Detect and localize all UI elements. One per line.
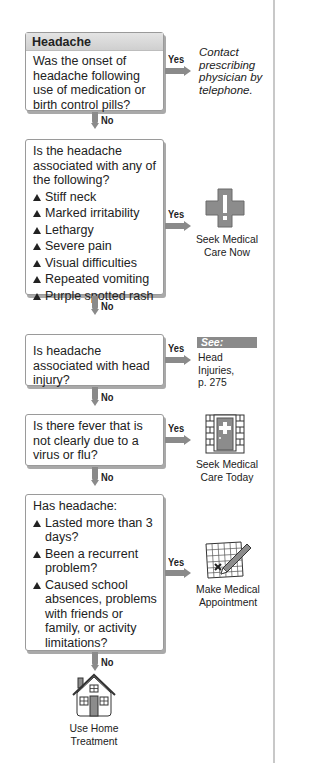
question-text: Is the headache associated with any of t…: [33, 144, 157, 188]
triangle-bullet-icon: [33, 276, 41, 283]
list-item: Lethargy: [33, 223, 157, 238]
list-item: Repeated vomiting: [33, 272, 157, 287]
house-icon: [71, 673, 117, 718]
question-text: Is headache associated with head injury?: [26, 335, 163, 392]
outcome-line: Appointment: [192, 596, 264, 609]
no-arrow: [92, 652, 98, 666]
outcome-seek-care-now: Seek Medical Care Now: [196, 233, 259, 258]
yes-arrow: [165, 223, 185, 229]
list-item-text: Lethargy: [45, 223, 94, 237]
list-item-text: Repeated vomiting: [45, 272, 149, 286]
yes-arrow: [165, 357, 185, 363]
outcome-line: Use Home: [63, 722, 126, 735]
question-box-medication: Headache Was the onset of headache follo…: [25, 32, 164, 111]
question-text: Has headache:: [33, 499, 157, 514]
question-content: Is the headache associated with any of t…: [26, 140, 163, 307]
symptom-list: Stiff neck Marked irritability Lethargy …: [33, 190, 157, 304]
no-arrow: [92, 296, 98, 310]
no-label: No: [101, 471, 113, 483]
list-item-text: Severe pain: [45, 239, 112, 253]
list-item-text: Stiff neck: [45, 190, 96, 204]
list-item: Marked irritability: [33, 206, 157, 221]
list-item: Lasted more than 3 days?: [33, 516, 157, 545]
list-item-text: Marked irritability: [45, 206, 139, 220]
list-item: Caused school absences, problems with fr…: [33, 578, 157, 651]
no-label: No: [101, 391, 113, 403]
triangle-bullet-icon: [33, 194, 41, 201]
yes-arrow: [165, 437, 185, 443]
no-arrow: [92, 467, 98, 481]
yes-label: Yes: [168, 342, 184, 354]
list-item: Severe pain: [33, 239, 157, 254]
medical-cross-exclamation-icon: [205, 188, 245, 228]
no-label: No: [101, 656, 113, 668]
page-edge-rule: [273, 0, 275, 763]
yes-label: Yes: [168, 422, 184, 434]
flowchart-title: Headache: [26, 33, 163, 51]
yes-label: Yes: [168, 53, 184, 65]
see-badge: See:: [197, 337, 257, 348]
no-arrow: [92, 112, 98, 124]
no-arrow: [92, 387, 98, 401]
outcome-home-treatment: Use Home Treatment: [63, 722, 126, 747]
yes-label: Yes: [168, 556, 184, 568]
question-box-fever: Is there fever that is not clearly due t…: [25, 414, 164, 466]
outcome-line: Seek Medical: [196, 458, 259, 471]
question-content: Has headache: Lasted more than 3 days? B…: [26, 495, 163, 654]
list-item-text: Visual difficulties: [45, 256, 137, 270]
outcome-line: Treatment: [63, 735, 126, 748]
no-label: No: [101, 114, 113, 126]
triangle-bullet-icon: [33, 243, 41, 250]
list-item-text: Lasted more than 3 days?: [45, 516, 153, 545]
list-item-text: Been a recurrent problem?: [45, 547, 138, 576]
outcome-make-appointment: Make Medical Appointment: [192, 583, 264, 608]
outcome-seek-care-today: Seek Medical Care Today: [196, 458, 259, 483]
reference-page: p. 275: [198, 376, 234, 389]
triangle-bullet-icon: [33, 227, 41, 234]
outcome-line: Care Today: [196, 471, 259, 484]
yes-label: Yes: [168, 208, 184, 220]
outcome-line: Seek Medical: [196, 233, 259, 246]
yes-arrow: [165, 68, 185, 74]
list-item: Stiff neck: [33, 190, 157, 205]
reference-line: Head: [198, 351, 234, 364]
outcome-contact-physician: Contact prescribing physician by telepho…: [199, 46, 271, 96]
outcome-line: Care Now: [196, 246, 259, 259]
list-item-text: Purple spotted rash: [45, 289, 153, 303]
no-label: No: [101, 300, 113, 312]
question-box-symptoms: Is the headache associated with any of t…: [25, 139, 164, 295]
question-box-head-injury: Is headache associated with head injury?: [25, 334, 164, 386]
triangle-bullet-icon: [33, 582, 41, 589]
triangle-bullet-icon: [33, 551, 41, 558]
question-box-chronic: Has headache: Lasted more than 3 days? B…: [25, 494, 164, 651]
triangle-bullet-icon: [33, 260, 41, 267]
criteria-list: Lasted more than 3 days? Been a recurren…: [33, 516, 157, 651]
triangle-bullet-icon: [33, 210, 41, 217]
list-item: Been a recurrent problem?: [33, 547, 157, 576]
triangle-bullet-icon: [33, 520, 41, 527]
yes-arrow: [165, 570, 185, 576]
cross-reference-link[interactable]: Head Injuries, p. 275: [198, 351, 234, 389]
question-text: Was the onset of headache following use …: [26, 51, 163, 116]
list-item-text: Caused school absences, problems with fr…: [45, 578, 157, 650]
clinic-door-icon: [205, 414, 245, 454]
reference-line: Injuries,: [198, 364, 234, 377]
outcome-line: Make Medical: [192, 583, 264, 596]
triangle-bullet-icon: [33, 293, 41, 300]
question-text: Is there fever that is not clearly due t…: [26, 415, 163, 467]
list-item: Visual difficulties: [33, 256, 157, 271]
calendar-pencil-icon: [203, 538, 253, 580]
